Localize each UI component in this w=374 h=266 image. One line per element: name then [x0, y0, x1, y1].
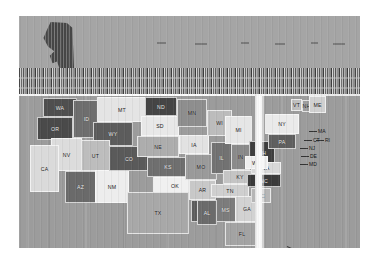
- faint-artifact-mark: [333, 43, 345, 45]
- state-label-ar: AR: [199, 187, 207, 193]
- state-ca[interactable]: CA: [30, 145, 59, 192]
- state-label-wi: WI: [216, 120, 223, 126]
- state-label-mt: MT: [118, 107, 126, 113]
- state-label-ks: KS: [164, 164, 171, 170]
- state-pa[interactable]: PA: [268, 134, 296, 149]
- white-column-artifact-edge: [262, 94, 264, 248]
- map-canvas[interactable]: WAORIDMTWYNVUTCAAZNMCONDSDNEKSOKTXMNIAMO…: [19, 96, 360, 248]
- state-label-pa: PA: [279, 139, 286, 145]
- state-label-ky: KY: [236, 174, 243, 180]
- state-label-ms: MS: [221, 207, 229, 213]
- faint-artifact-mark: [275, 43, 285, 45]
- state-label-ma: MA: [318, 128, 326, 134]
- state-nd[interactable]: ND: [145, 97, 177, 116]
- state-label-nj: NJ: [309, 145, 315, 151]
- state-ia[interactable]: IA: [179, 135, 209, 154]
- state-label-mn: MN: [188, 110, 196, 116]
- white-column-artifact: [255, 94, 262, 248]
- state-label-ct: CT: [313, 137, 320, 143]
- column-artifact: [345, 96, 347, 248]
- state-label-nd: ND: [157, 104, 165, 110]
- state-mn[interactable]: MN: [177, 99, 207, 127]
- faint-artifact-mark: [195, 43, 207, 45]
- state-label-id: ID: [84, 116, 90, 122]
- state-label-al: AL: [204, 210, 211, 216]
- leader-line-de: [301, 156, 309, 157]
- state-label-ut: UT: [92, 153, 99, 159]
- state-fl[interactable]: FL: [225, 222, 259, 246]
- state-label-il: IL: [219, 155, 224, 161]
- column-artifact: [27, 96, 29, 248]
- state-or[interactable]: OR: [37, 117, 73, 140]
- state-al[interactable]: AL: [197, 200, 217, 225]
- state-label-mi: MI: [235, 127, 241, 133]
- state-label-ca: CA: [41, 166, 49, 172]
- state-label-wa: WA: [56, 105, 65, 111]
- state-mi[interactable]: MI: [225, 116, 252, 144]
- streak-row-break: [19, 77, 360, 79]
- state-label-co: CO: [125, 156, 133, 162]
- faint-artifact-mark: [311, 42, 318, 44]
- state-label-fl: FL: [239, 231, 245, 237]
- state-label-mo: MO: [197, 164, 206, 170]
- leader-line-nj: [300, 148, 308, 149]
- state-label-wy: WY: [109, 131, 118, 137]
- state-tx[interactable]: TX: [127, 192, 189, 234]
- state-label-az: AZ: [77, 184, 84, 190]
- streak-row-break: [19, 87, 360, 89]
- state-label-tx: TX: [154, 210, 161, 216]
- state-label-ne: NE: [154, 144, 162, 150]
- state-label-ia: IA: [191, 142, 196, 148]
- state-label-tn: TN: [226, 188, 233, 194]
- state-ms[interactable]: MS: [215, 197, 236, 222]
- state-label-ok: OK: [171, 183, 179, 189]
- state-mt[interactable]: MT: [97, 97, 147, 122]
- state-nm[interactable]: NM: [95, 170, 129, 203]
- state-label-in: IN: [238, 154, 244, 160]
- state-sd[interactable]: SD: [141, 116, 179, 136]
- faint-artifact-mark: [157, 42, 166, 44]
- state-label-ga: GA: [243, 206, 251, 212]
- us-choropleth-figure[interactable]: WAORIDMTWYNVUTCAAZNMCONDSDNEKSOKTXMNIAMO…: [19, 16, 360, 248]
- state-label-ri: RI: [325, 137, 330, 143]
- state-label-md: MD: [309, 161, 317, 167]
- state-label-ny: NY: [278, 121, 286, 127]
- state-me[interactable]: ME: [309, 96, 326, 113]
- state-label-or: OR: [51, 126, 59, 132]
- state-ny[interactable]: NY: [265, 114, 299, 134]
- state-label-vt: VT: [293, 102, 300, 108]
- screenshot-stage: WAORIDMTWYNVUTCAAZNMCONDSDNEKSOKTXMNIAMO…: [0, 0, 374, 266]
- state-wa[interactable]: WA: [43, 98, 77, 117]
- state-nc[interactable]: NC: [247, 174, 281, 187]
- state-az[interactable]: AZ: [65, 171, 96, 203]
- dc-leader-line: [287, 246, 304, 248]
- faint-artifact-mark: [241, 42, 249, 44]
- state-label-nv: NV: [63, 152, 71, 158]
- state-ne[interactable]: NE: [137, 136, 179, 157]
- state-ks[interactable]: KS: [147, 157, 189, 177]
- leader-line-md: [300, 164, 308, 165]
- leader-line-ma: [309, 131, 317, 132]
- state-label-nm: NM: [108, 184, 116, 190]
- state-label-me: ME: [313, 102, 321, 108]
- state-ut[interactable]: UT: [81, 140, 110, 171]
- state-label-sd: SD: [156, 123, 164, 129]
- state-vt[interactable]: VT: [291, 99, 302, 111]
- state-label-de: DE: [310, 153, 317, 159]
- leader-line-ct: [304, 140, 312, 141]
- alaska-smear-artifact: [39, 22, 84, 69]
- column-artifact: [319, 96, 320, 248]
